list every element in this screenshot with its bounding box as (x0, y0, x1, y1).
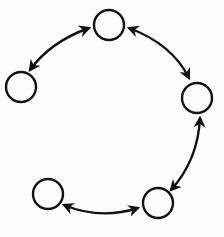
node-bottom-right-circle (143, 188, 173, 218)
node-bottom-left-circle (33, 179, 63, 209)
node-top-circle (94, 10, 124, 40)
edge-top-left-double-arrow (30, 28, 89, 70)
edge-right-bottom-right-double-arrow (171, 118, 200, 190)
nodes-group (6, 10, 212, 218)
edge-top-right-double-arrow (129, 28, 189, 78)
node-right-circle (182, 83, 212, 113)
node-left-circle (6, 72, 36, 102)
cycle-diagram (0, 0, 224, 237)
edge-bottom-right-bottom-left-double-arrow (64, 205, 138, 213)
